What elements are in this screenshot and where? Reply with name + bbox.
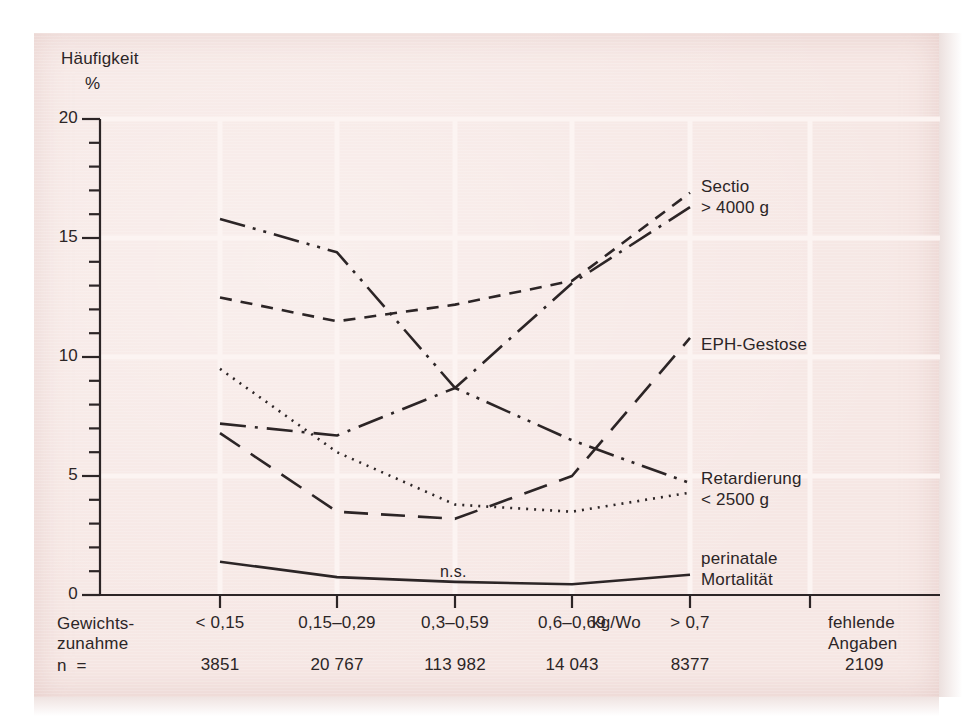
y-tick-label-10: 10 <box>40 346 78 366</box>
n-value-3: 14 043 <box>520 655 624 675</box>
series-label-retardierung-line2: < 2500 g <box>701 489 769 510</box>
x-category-label-0: < 0,15 <box>168 613 272 633</box>
y-tick-label-20: 20 <box>40 108 78 128</box>
y-tick-label-0: 0 <box>40 584 78 604</box>
missing-data-label-line1: fehlende <box>828 613 895 633</box>
n-value-2: 113 982 <box>403 655 507 675</box>
missing-data-n: 2109 <box>845 655 884 675</box>
row-label-weight-line2: zunahme <box>57 633 128 654</box>
series-label-retardierung-line1: Retardierung <box>701 468 802 489</box>
n-value-0: 3851 <box>168 655 272 675</box>
figure-canvas: Häufigkeit % 20151050 < 0,1538510,15–0,2… <box>0 0 975 721</box>
annotation-not-significant: n.s. <box>440 563 467 581</box>
row-label-weight-line1: Gewichts- <box>57 613 134 634</box>
x-axis-unit: kg/Wo <box>592 613 641 633</box>
y-tick-label-5: 5 <box>40 465 78 485</box>
n-value-1: 20 767 <box>285 655 389 675</box>
series-label-sectio-line1: Sectio <box>701 176 749 197</box>
gridlines <box>100 119 940 595</box>
series-label-sectio-line2: > 4000 g <box>701 197 769 218</box>
x-category-label-1: 0,15–0,29 <box>285 613 389 633</box>
series-label-eph-gestose: EPH-Gestose <box>701 334 807 355</box>
y-axis-title-line2: % <box>85 74 100 94</box>
y-tick-label-15: 15 <box>40 227 78 247</box>
series-label-mortalitaet-line1: perinatale <box>701 548 778 569</box>
missing-data-label-line2: Angaben <box>828 634 897 654</box>
series-label-mortalitaet-line2: Mortalität <box>701 569 773 590</box>
y-axis-title-line1: Häufigkeit <box>61 49 139 69</box>
x-category-label-2: 0,3–0,59 <box>403 613 507 633</box>
n-value-4: 8377 <box>638 655 742 675</box>
row-label-n: n = <box>57 655 87 676</box>
x-category-label-4: > 0,7 <box>638 613 742 633</box>
